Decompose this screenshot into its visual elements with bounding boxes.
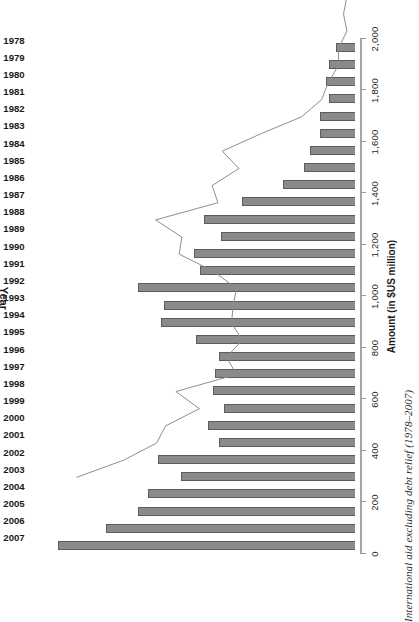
category-axis-title: Year (0, 287, 10, 310)
value-tick (360, 399, 366, 400)
bar[interactable] (219, 352, 355, 361)
bar[interactable] (208, 421, 355, 430)
bar[interactable] (329, 60, 355, 69)
bar[interactable] (326, 77, 355, 86)
value-tick-label: 1,800 (369, 78, 380, 103)
figure-caption: International aid excluding debt relief … (402, 392, 414, 622)
bar-slot (18, 228, 355, 245)
value-tick-label: 200 (369, 494, 380, 510)
bar-slot (18, 159, 355, 176)
value-tick (360, 347, 366, 348)
value-tick-label: 800 (369, 340, 380, 356)
bar-slot (18, 90, 355, 107)
bar-slot (18, 520, 355, 537)
bar[interactable] (164, 301, 355, 310)
bar-slot (18, 73, 355, 90)
value-tick-label: 1,400 (369, 181, 380, 206)
bar-slot (18, 193, 355, 210)
value-tick-label: 0 (369, 551, 380, 556)
bar[interactable] (213, 386, 355, 395)
chart-page: { "caption": "International aid excludin… (0, 0, 419, 622)
chart-figure: 2007200620052004200320022001200019991998… (0, 0, 419, 622)
bar-slot (18, 365, 355, 382)
value-tick-label: 1,600 (369, 130, 380, 155)
bar[interactable] (204, 215, 355, 224)
bar[interactable] (283, 180, 355, 189)
value-axis-title: Amount (in $US million) (386, 39, 397, 554)
value-tick-label: 1,000 (369, 284, 380, 309)
value-tick-label: 2,000 (369, 27, 380, 52)
bar[interactable] (320, 112, 355, 121)
bar-slot (18, 211, 355, 228)
bar[interactable] (242, 197, 355, 206)
bar-slot (18, 451, 355, 468)
value-tick (360, 38, 366, 39)
bar-slot (18, 434, 355, 451)
value-tick (360, 553, 366, 554)
bar[interactable] (138, 507, 355, 516)
bar[interactable] (200, 266, 355, 275)
bar-slot (18, 417, 355, 434)
plot-wrapper: 2007200620052004200320022001200019991998… (0, 0, 419, 622)
bar-slot (18, 399, 355, 416)
bar-series (18, 39, 355, 554)
bar[interactable] (58, 541, 355, 550)
value-tick (360, 296, 366, 297)
bar-slot (18, 56, 355, 73)
value-tick-label: 600 (369, 391, 380, 407)
bar-slot (18, 245, 355, 262)
bar[interactable] (320, 129, 355, 138)
bar[interactable] (224, 404, 355, 413)
value-tick-label: 400 (369, 443, 380, 459)
value-tick (360, 502, 366, 503)
value-tick (360, 90, 366, 91)
bar-slot (18, 502, 355, 519)
value-tick (360, 244, 366, 245)
bar[interactable] (219, 438, 355, 447)
value-tick (360, 450, 366, 451)
bar-slot (18, 125, 355, 142)
bar[interactable] (106, 524, 355, 533)
bar[interactable] (181, 472, 355, 481)
bar-slot (18, 468, 355, 485)
bar[interactable] (194, 249, 355, 258)
bar[interactable] (329, 94, 355, 103)
bar-slot (18, 279, 355, 296)
value-tick (360, 193, 366, 194)
bar-slot (18, 39, 355, 56)
bar-slot (18, 142, 355, 159)
bar-slot (18, 262, 355, 279)
value-tick-label: 1,200 (369, 233, 380, 258)
value-axis-ticks: 02004006008001,0001,2001,4001,6001,8002,… (360, 39, 361, 554)
bar[interactable] (196, 335, 355, 344)
bar-slot (18, 331, 355, 348)
bar-slot (18, 537, 355, 554)
bar-slot (18, 485, 355, 502)
bar-slot (18, 176, 355, 193)
plot-area (18, 39, 355, 554)
bar[interactable] (221, 232, 355, 241)
bar[interactable] (310, 146, 355, 155)
bar-slot (18, 314, 355, 331)
bar-slot (18, 296, 355, 313)
bar[interactable] (158, 455, 355, 464)
bar-slot (18, 348, 355, 365)
bar[interactable] (161, 318, 355, 327)
bar[interactable] (336, 43, 355, 52)
bar[interactable] (138, 283, 355, 292)
bar[interactable] (148, 489, 355, 498)
bar-slot (18, 108, 355, 125)
bar[interactable] (215, 369, 355, 378)
value-tick (360, 141, 366, 142)
bar-slot (18, 382, 355, 399)
bar[interactable] (304, 163, 355, 172)
